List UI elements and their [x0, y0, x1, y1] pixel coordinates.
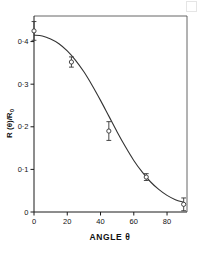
page-corner-artifact-icon [186, 1, 197, 12]
x-tick-label: 40 [96, 217, 104, 226]
svg-text:R (θ)/R0: R (θ)/R0 [5, 108, 15, 138]
scatter-plot-canvas: 00·10·20·30·4 020406080 R (θ)/R0 ANGLE θ [0, 0, 200, 254]
data-point-markers [32, 29, 186, 207]
y-tick-label: 0·4 [18, 37, 29, 46]
x-axis-label: ANGLE θ [90, 232, 131, 242]
x-tick-label: 80 [163, 217, 171, 226]
data-point [144, 175, 148, 179]
figure-container: 00·10·20·30·4 020406080 R (θ)/R0 ANGLE θ [0, 0, 200, 254]
data-point [32, 29, 36, 33]
data-point [69, 60, 73, 64]
fit-curve [34, 35, 184, 202]
y-tick-label: 0 [24, 208, 28, 217]
y-tick-label: 0·2 [18, 122, 29, 131]
data-point [107, 129, 111, 133]
y-tick-label: 0·3 [18, 80, 29, 89]
x-tick-label: 60 [130, 217, 138, 226]
x-axis-ticks [34, 212, 167, 216]
data-point [182, 202, 186, 206]
x-tick-label: 20 [63, 217, 71, 226]
y-axis-ticks [31, 42, 35, 212]
y-tick-label: 0·1 [18, 165, 29, 174]
y-axis-label-subscript: 0 [9, 108, 15, 112]
plot-frame [34, 16, 187, 212]
y-axis-tick-labels: 00·10·20·30·4 [18, 37, 29, 216]
y-axis-label-text: R (θ)/R [5, 112, 14, 138]
x-axis-tick-labels: 020406080 [32, 217, 171, 226]
y-axis-label: R (θ)/R0 [5, 108, 15, 138]
x-tick-label: 0 [32, 217, 36, 226]
